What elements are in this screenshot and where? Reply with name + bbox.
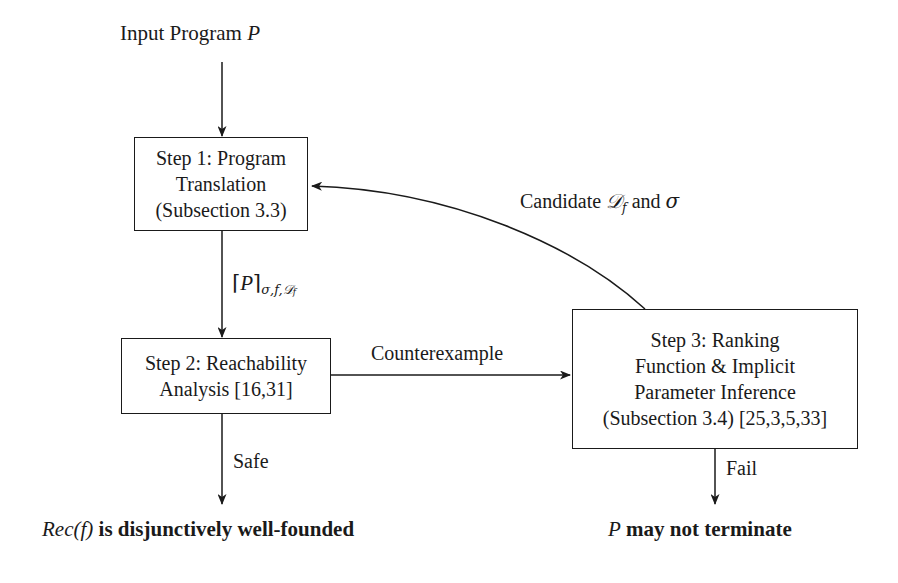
step-3-line-1: Step 3: Ranking xyxy=(651,327,780,353)
result-p-may-not-terminate: P may not terminate xyxy=(608,518,792,541)
step-3-line-4: (Subsection 3.4) [25,3,5,33] xyxy=(603,405,827,431)
candidate-conjunction: and xyxy=(632,190,661,212)
ceiling-open-bracket: ⌈ xyxy=(232,271,240,295)
edge-label-safe: Safe xyxy=(233,450,269,472)
figure-canvas: Input Program P Step 1: Program Translat… xyxy=(0,0,898,583)
translation-subscript: σ,f,𝒟 xyxy=(261,282,293,297)
result-fail-math-variable: P xyxy=(608,517,621,541)
step-1-line-2: Translation xyxy=(176,171,266,197)
step-1-line-3: (Subsection 3.3) xyxy=(155,197,286,223)
program-variable: P xyxy=(240,271,253,295)
step-3-line-2: Function & Implicit xyxy=(635,353,795,379)
step-1-line-1: Step 1: Program xyxy=(156,145,286,171)
translation-subscript-nested: f xyxy=(293,287,296,297)
step-2-reachability-analysis[interactable]: Step 2: Reachability Analysis [16,31] xyxy=(121,338,331,414)
step-3-line-3: Parameter Inference xyxy=(634,379,796,405)
entry-label-text: Input Program xyxy=(120,21,242,45)
candidate-domain-symbol: 𝒟 xyxy=(606,189,622,213)
edge-label-candidate: Candidate 𝒟f and σ xyxy=(520,190,679,214)
step-1-program-translation[interactable]: Step 1: Program Translation (Subsection … xyxy=(134,137,308,231)
edge-label-counterexample: Counterexample xyxy=(371,342,503,364)
edge-label-fail: Fail xyxy=(726,457,757,479)
entry-label: Input Program P xyxy=(120,22,260,45)
edge-label-translated-program: ⌈P⌉σ,f,𝒟f xyxy=(232,272,296,298)
result-fail-statement: may not terminate xyxy=(626,517,792,541)
result-rec-f-disjunctively-well-founded: Rec(f) is disjunctively well-founded xyxy=(42,518,354,541)
entry-label-variable: P xyxy=(247,21,260,45)
connector-layer xyxy=(0,0,898,583)
result-safe-statement: is disjunctively well-founded xyxy=(99,517,355,541)
step-3-ranking-function-parameter-inference[interactable]: Step 3: Ranking Function & Implicit Para… xyxy=(572,309,858,449)
result-safe-math-prefix: Rec xyxy=(42,517,73,541)
ceiling-close-bracket: ⌉ xyxy=(253,271,261,295)
step-2-line-2: Analysis [16,31] xyxy=(159,376,292,402)
candidate-text: Candidate xyxy=(520,190,601,212)
step-2-line-1: Step 2: Reachability xyxy=(145,350,307,376)
candidate-sigma-symbol: σ xyxy=(666,189,680,213)
